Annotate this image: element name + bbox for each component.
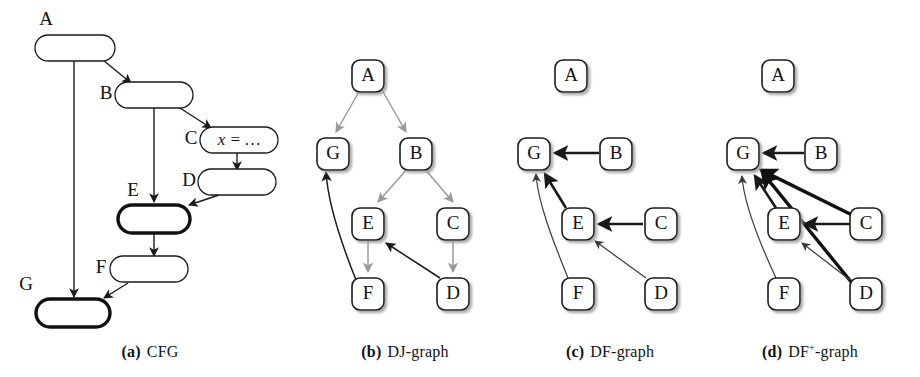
caption-df-plus-graph-text: DF [788, 343, 809, 360]
df-node-A-label: A [564, 64, 578, 85]
df-plus-graph-diagram: A G B E C F D [700, 0, 920, 377]
df-node-E-label: E [572, 212, 584, 233]
caption-df-graph: (c)DF-graph [500, 343, 720, 361]
dj-graph-diagram: A G B E C F D [300, 0, 510, 377]
df-node-E[interactable]: E [562, 208, 594, 240]
cfg-node-E-label: E [127, 179, 139, 200]
dj-node-F[interactable]: F [352, 278, 384, 310]
dj-node-G-label: G [326, 142, 340, 163]
dfp-node-G[interactable]: G [727, 138, 759, 170]
dj-node-D[interactable]: D [437, 278, 469, 310]
df-node-C[interactable]: C [645, 208, 677, 240]
dfp-node-B-label: B [815, 142, 828, 163]
cfg-node-A[interactable]: A [35, 8, 115, 61]
dj-edge-A-B [382, 90, 406, 132]
figure-root: A B C x = … D E [0, 0, 920, 377]
cfg-node-F[interactable]: F [96, 256, 188, 282]
caption-cfg-tag: (a) [122, 343, 141, 360]
cfg-node-C-label: C [185, 127, 198, 148]
caption-cfg: (a)CFG [0, 343, 300, 361]
dj-edge-A-G [336, 90, 360, 132]
caption-dj-graph: (b)DJ-graph [300, 343, 510, 361]
dj-node-D-label: D [446, 282, 460, 303]
df-edge-D-E [595, 241, 646, 278]
dj-node-C-label: C [447, 212, 460, 233]
df-node-F-label: F [573, 282, 584, 303]
dj-node-F-label: F [363, 282, 374, 303]
caption-df-plus-graph: (d)DF+-graph [700, 342, 920, 361]
dfp-node-E[interactable]: E [768, 208, 800, 240]
cfg-node-G-label: G [19, 273, 33, 294]
cfg-edge-F-G [104, 283, 128, 298]
caption-dj-graph-text: DJ-graph [388, 343, 449, 360]
cfg-node-B-label: B [100, 82, 113, 103]
df-node-D-label: D [654, 282, 668, 303]
cfg-node-C[interactable]: C x = … [185, 127, 278, 153]
df-node-B-label: B [610, 142, 623, 163]
df-edge-E-G [545, 174, 566, 208]
dj-node-G[interactable]: G [317, 138, 349, 170]
caption-df-graph-text: DF-graph [590, 343, 654, 360]
panel-dj-graph: A G B E C F D [300, 0, 510, 377]
dj-node-C[interactable]: C [437, 208, 469, 240]
df-node-C-label: C [655, 212, 668, 233]
dfp-node-C[interactable]: C [850, 208, 882, 240]
cfg-node-G[interactable]: G [19, 273, 110, 327]
panel-df-graph: A G B E C F D [500, 0, 720, 377]
caption-df-plus-graph-tag: (d) [762, 343, 782, 360]
df-node-B[interactable]: B [600, 138, 632, 170]
dfp-node-A-label: A [771, 64, 785, 85]
dfp-node-B[interactable]: B [805, 138, 837, 170]
dj-node-A[interactable]: A [352, 60, 384, 92]
caption-df-plus-graph-tail: -graph [815, 343, 858, 360]
panel-df-plus-graph: A G B E C F D [700, 0, 920, 377]
cfg-edge-D-E [189, 195, 219, 205]
panel-cfg: A B C x = … D E [0, 0, 300, 377]
df-node-D[interactable]: D [645, 278, 677, 310]
dj-node-B-label: B [410, 142, 423, 163]
dj-node-E-label: E [362, 212, 374, 233]
cfg-node-D-label: D [182, 169, 196, 190]
dfp-node-D-label: D [859, 282, 873, 303]
cfg-edge-A-B [103, 60, 131, 83]
df-node-A[interactable]: A [555, 60, 587, 92]
dj-node-A-label: A [361, 64, 375, 85]
df-node-G-label: G [527, 142, 541, 163]
caption-df-graph-tag: (c) [566, 343, 584, 360]
cfg-node-F-label: F [96, 256, 107, 277]
caption-cfg-text: CFG [147, 343, 179, 360]
df-node-F[interactable]: F [562, 278, 594, 310]
cfg-diagram: A B C x = … D E [0, 0, 300, 377]
dj-edge-D-E [386, 243, 440, 278]
dfp-node-E-label: E [778, 212, 790, 233]
dfp-node-A[interactable]: A [762, 60, 794, 92]
dfp-node-F-label: F [779, 282, 790, 303]
caption-dj-graph-tag: (b) [361, 343, 381, 360]
df-graph-diagram: A G B E C F D [500, 0, 720, 377]
dj-node-B[interactable]: B [400, 138, 432, 170]
dj-node-E[interactable]: E [352, 208, 384, 240]
dfp-node-C-label: C [860, 212, 873, 233]
dfp-node-D[interactable]: D [850, 278, 882, 310]
dj-edge-B-C [424, 168, 453, 202]
dfp-node-G-label: G [736, 142, 750, 163]
cfg-node-C-code: x = … [217, 130, 261, 149]
dfp-node-F[interactable]: F [768, 278, 800, 310]
cfg-node-B[interactable]: B [100, 82, 193, 108]
cfg-node-A-label: A [39, 8, 53, 29]
dj-edge-B-E [378, 168, 408, 202]
dfp-edge-E-G [755, 176, 776, 208]
df-node-G[interactable]: G [518, 138, 550, 170]
cfg-edge-B-C [180, 108, 211, 128]
cfg-node-D[interactable]: D [182, 169, 276, 195]
